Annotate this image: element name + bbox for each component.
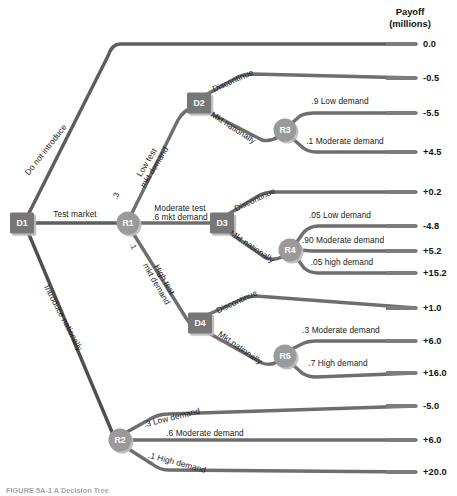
payoff-header-line2: (millions) [364,18,456,29]
branch-label-line: .6 mkt demand [152,213,208,222]
branch-label-r3-low-demand: .9 Low demand [311,97,368,106]
payoff-header-line1: Payoff [368,6,452,17]
terminal-bars [386,44,416,472]
branch-label-r5-moderate-demand: .3 Moderate demand [302,326,379,335]
node-r5[interactable]: R5 [274,345,297,368]
node-label: R1 [122,218,133,228]
payoff-r2-moderate: +6.0 [423,435,442,445]
node-r1[interactable]: R1 [117,212,140,235]
branch-label-line: .05 Low demand [309,211,371,220]
node-d1[interactable]: D1 [10,213,34,234]
payoff-d2-discontinue: -0.5 [423,73,439,83]
node-r3[interactable]: R3 [274,119,297,142]
branch-label-r4-low-demand: .05 Low demand [309,211,371,220]
payoff-r4-moderate: +5.2 [423,246,442,256]
branch-label-r4-high-demand: .05 high demand [311,258,374,267]
payoff-r5-moderate: +6.0 [423,336,442,346]
node-label: D2 [193,98,204,108]
payoff-r4-high: +15.2 [423,268,447,278]
decision-tree-canvas: D1R1D2R3D3R4D4R5R2 [0,0,457,496]
payoff-d3-discontinue: +0.2 [423,187,442,197]
branch-label-test-market: Test market [53,210,96,219]
branch-label-r3-moderate-demand: .1 Moderate demand [306,137,383,146]
branch-label-moderate-test-demand: Moderate test.6 mkt demand [152,204,208,223]
node-r2[interactable]: R2 [109,429,132,452]
node-label: D3 [216,218,227,228]
branch-label-line: .7 High demand [308,359,367,368]
branch-label-r2-moderate-demand: .6 Moderate demand [166,429,243,438]
node-label: R2 [114,435,125,445]
payoff-r4-low: -4.8 [423,221,439,231]
payoff-r2-low: -5.0 [423,401,439,411]
branch-label-line: Test market [53,210,96,219]
payoff-r3-low: -5.5 [423,108,439,118]
branch-label-r4-moderate-demand: .90 Moderate demand [302,236,384,245]
branch-label-line: .05 high demand [311,258,374,267]
branch-label-line: .90 Moderate demand [302,236,384,245]
node-label: R3 [279,125,290,135]
branch-label-r5-high-demand: .7 High demand [308,359,367,368]
branch-label-line: .1 Moderate demand [306,137,383,146]
branch-label-line: .6 Moderate demand [166,429,243,438]
node-r4[interactable]: R4 [279,239,302,262]
payoff-r3-moderate: +4.5 [423,147,442,157]
branch-do-not-introduce [28,44,416,215]
payoff-r5-high: +16.0 [423,368,447,378]
node-label: R5 [279,351,290,361]
payoff-d4-discontinue: +1.0 [423,303,442,313]
branch-label-line: .9 Low demand [311,97,368,106]
node-d3[interactable]: D3 [210,213,234,234]
node-d4[interactable]: D4 [188,313,212,334]
branch-label-line: .3 Moderate demand [302,326,379,335]
node-label: D4 [194,318,205,328]
figure-caption: FIGURE 5A-1 A Decision Tree [6,486,109,495]
node-label: R4 [284,245,295,255]
payoff-do-not-introduce: 0.0 [423,39,436,49]
node-d2[interactable]: D2 [187,93,211,114]
node-label: D1 [16,218,27,228]
payoff-r2-high: +20.0 [423,467,447,477]
